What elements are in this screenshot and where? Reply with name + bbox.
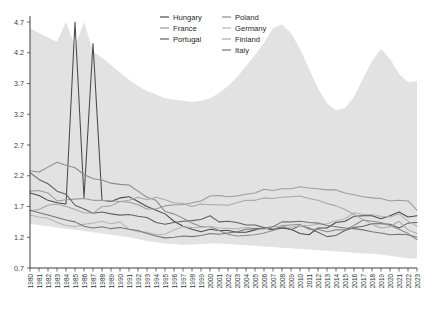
legend-label-italy: Italy [235, 46, 249, 55]
x-tick-label: 1992 [135, 274, 142, 289]
y-axis-tick-labels: 0.71.21.72.22.73.23.74.24.7 [14, 18, 24, 273]
x-tick-label: 2011 [306, 274, 313, 288]
x-tick-label: 2015 [342, 274, 349, 289]
x-tick-label: 1989 [108, 274, 115, 289]
x-tick-label: 2012 [315, 274, 322, 289]
y-tick-label: 0.7 [14, 264, 24, 273]
x-tick-label: 1990 [117, 274, 124, 289]
y-tick-label: 4.2 [14, 48, 24, 57]
x-tick-label: 2004 [243, 274, 250, 289]
x-tick-label: 2002 [225, 274, 232, 289]
x-tick-label: 1999 [198, 274, 205, 289]
x-tick-label: 1997 [180, 274, 187, 289]
x-tick-label: 2007 [270, 274, 277, 289]
x-tick-label: 1993 [144, 274, 151, 289]
line-chart: 0.71.21.72.22.73.23.74.24.7 198019811982… [0, 0, 425, 310]
x-tick-label: 2017 [360, 274, 367, 289]
legend-label-france: France [173, 24, 197, 33]
x-tick-label: 1996 [171, 274, 178, 289]
y-tick-label: 3.2 [14, 110, 24, 119]
x-tick-label: 2013 [324, 274, 331, 289]
x-tick-label: 1980 [27, 274, 34, 289]
y-tick-label: 1.2 [14, 233, 24, 242]
x-tick-label: 2021 [396, 274, 403, 289]
legend-label-finland: Finland [235, 35, 260, 44]
x-tick-label: 1986 [81, 274, 88, 289]
x-tick-label: 1982 [45, 274, 52, 289]
x-tick-label: 1995 [162, 274, 169, 289]
x-tick-label: 2019 [378, 274, 385, 289]
x-tick-label: 1984 [63, 274, 70, 289]
x-tick-label: 2020 [387, 274, 394, 289]
legend-label-portugal: Portugal [173, 35, 202, 44]
x-tick-label: 1994 [153, 274, 160, 289]
x-tick-label: 1983 [54, 274, 61, 289]
x-tick-label: 2006 [261, 274, 268, 289]
y-tick-label: 2.2 [14, 171, 24, 180]
chart-container: 0.71.21.72.22.73.23.74.24.7 198019811982… [0, 0, 425, 310]
x-tick-label: 1998 [189, 274, 196, 289]
y-tick-label: 1.7 [14, 202, 24, 211]
x-tick-label: 2005 [252, 274, 259, 289]
x-tick-label: 2009 [288, 274, 295, 289]
min-max-band [30, 22, 417, 259]
legend-label-hungary: Hungary [173, 13, 202, 22]
x-tick-label: 1988 [99, 274, 106, 289]
chart-legend: HungaryFrancePortugalPolandGermanyFinlan… [160, 13, 266, 55]
x-tick-label: 2018 [369, 274, 376, 289]
x-tick-label: 2003 [234, 274, 241, 289]
legend-label-poland: Poland [235, 13, 259, 22]
y-tick-label: 4.7 [14, 18, 24, 27]
x-tick-label: 1987 [90, 274, 97, 289]
legend-label-germany: Germany [235, 24, 266, 33]
y-tick-label: 3.7 [14, 79, 24, 88]
x-tick-label: 2023 [414, 274, 421, 289]
x-tick-label: 2008 [279, 274, 286, 289]
x-tick-label: 1981 [36, 274, 43, 289]
x-tick-label: 2010 [297, 274, 304, 289]
x-tick-label: 2016 [351, 274, 358, 289]
x-tick-label: 2000 [207, 274, 214, 289]
band-layer [30, 22, 417, 259]
x-tick-label: 1991 [126, 274, 133, 289]
y-tick-label: 2.7 [14, 141, 24, 150]
x-tick-label: 2022 [405, 274, 412, 289]
x-axis-tick-labels: 1980198119821983198419851986198719881989… [27, 274, 421, 289]
x-tick-label: 2014 [333, 274, 340, 289]
x-tick-label: 1985 [72, 274, 79, 289]
x-tick-label: 2001 [216, 274, 223, 289]
